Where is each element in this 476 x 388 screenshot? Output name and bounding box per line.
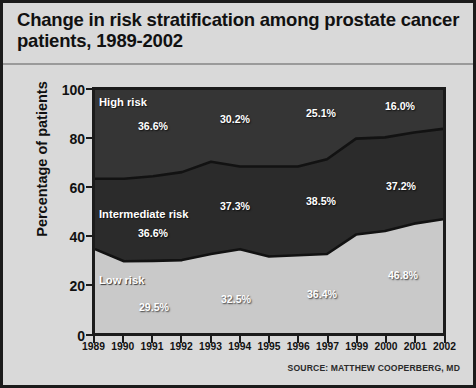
x-axis-ticks: 1989199019911992199319941995199619971999…	[3, 3, 476, 388]
x-tick-mark	[93, 336, 95, 343]
chart-figure: Change in risk stratification among pros…	[0, 0, 476, 388]
x-tick-mark	[414, 336, 416, 343]
x-tick-mark	[356, 336, 358, 343]
x-tick-mark	[327, 336, 329, 343]
x-tick-mark	[151, 336, 153, 343]
x-tick-mark	[210, 336, 212, 343]
x-tick-mark	[297, 336, 299, 343]
x-tick-mark	[239, 336, 241, 343]
x-tick-mark	[180, 336, 182, 343]
x-tick-mark	[268, 336, 270, 343]
x-tick-mark	[122, 336, 124, 343]
x-tick-mark	[385, 336, 387, 343]
x-tick-mark	[444, 336, 446, 343]
source-note: SOURCE: MATTHEW COOPERBERG, MD	[288, 363, 460, 373]
